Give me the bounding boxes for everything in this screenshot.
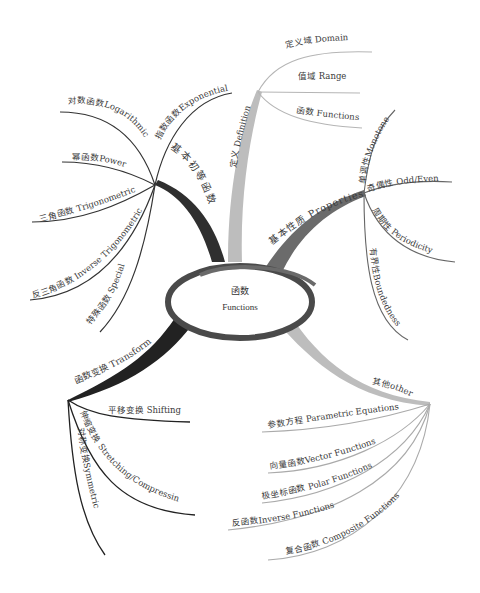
label-monotone[interactable]: 单调性Monotone xyxy=(357,114,391,184)
label-inverse-functions[interactable]: 反函数Inverse Functions xyxy=(231,500,335,528)
label-trigonometric[interactable]: 三角函数 Trigonometric xyxy=(38,184,137,224)
label-domain[interactable]: 定义域 Domain xyxy=(284,32,349,50)
mind-map: 函数 Functions 基本初等函数 指数函数Exponential 对数函数… xyxy=(0,0,480,593)
center-label-en: Functions xyxy=(222,302,258,312)
label-logarithmic[interactable]: 对数函数Logarithmic xyxy=(68,95,152,139)
label-power[interactable]: 幂函数Power xyxy=(72,152,129,170)
label-boundedness[interactable]: 有界性Boundedness xyxy=(368,247,403,327)
center-node[interactable]: 函数 Functions xyxy=(168,266,315,338)
label-stretching[interactable]: 伸缩变换 Stretching/Compressing xyxy=(0,0,181,504)
label-periodicity[interactable]: 周期性 Periodicity xyxy=(370,206,434,255)
label-shifting[interactable]: 平移变换 Shifting xyxy=(108,405,182,415)
label-exponential[interactable]: 指数函数Exponential xyxy=(153,83,229,141)
label-odd-even[interactable]: 奇偶性 Odd/Even xyxy=(365,173,439,194)
center-label-cn: 函数 xyxy=(231,285,249,296)
label-range[interactable]: 值域 Range xyxy=(298,71,346,81)
label-properties[interactable]: 基本性质 Properties xyxy=(266,188,365,247)
